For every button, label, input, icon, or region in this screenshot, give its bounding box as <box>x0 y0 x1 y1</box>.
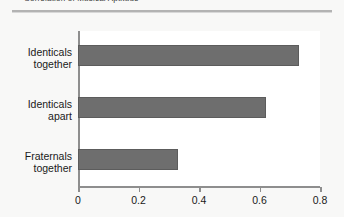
category-label-line: apart <box>0 110 72 122</box>
bar-identicals-apart <box>78 97 266 118</box>
bar-fraternals-together <box>78 149 178 170</box>
x-axis-tick-label: 0.2 <box>119 194 159 206</box>
x-axis-tick-mark <box>78 187 80 192</box>
category-label-identicals-together: Identicals together <box>0 46 72 70</box>
category-label-line: Fraternals <box>0 150 72 162</box>
caption-strip: Correlation of Musical Aptitude <box>0 0 344 8</box>
header-divider-shadow <box>12 12 332 13</box>
x-axis-tick-label: 0.8 <box>300 194 340 206</box>
bar-identicals-together <box>78 45 299 66</box>
category-label-line: Identicals <box>0 46 72 58</box>
x-axis-tick-mark <box>260 187 262 192</box>
x-axis-tick-mark <box>199 187 201 192</box>
x-axis-tick-mark <box>139 187 141 192</box>
x-axis-tick-label: 0 <box>58 194 98 206</box>
category-label-line: together <box>0 162 72 174</box>
x-axis-tick-label: 0.6 <box>240 194 280 206</box>
x-axis-tick-label: 0.4 <box>179 194 219 206</box>
figure-caption: Correlation of Musical Aptitude <box>24 0 139 3</box>
category-label-fraternals-together: Fraternals together <box>0 150 72 174</box>
figure-container: Correlation of Musical Aptitude Identica… <box>0 0 344 217</box>
category-label-line: Identicals <box>0 98 72 110</box>
x-axis-tick-mark <box>320 187 322 192</box>
category-label-identicals-apart: Identicals apart <box>0 98 72 122</box>
category-label-line: together <box>0 58 72 70</box>
